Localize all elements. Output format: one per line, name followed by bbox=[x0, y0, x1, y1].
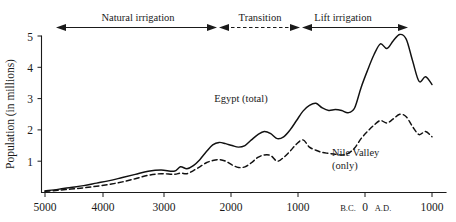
lift-irrigation-arrowhead-right bbox=[398, 24, 408, 31]
period-bracket-lift-irrigation: Lift irrigation bbox=[302, 12, 408, 31]
x-tick-label-4000bc: 4000 bbox=[92, 201, 115, 213]
x-tick-label-2000bc: 2000 bbox=[220, 201, 243, 213]
natural-irrigation-arrowhead-right bbox=[207, 24, 217, 31]
axis-lines bbox=[42, 36, 447, 193]
series-label-nile-valley-only: (only) bbox=[332, 160, 358, 172]
chart-figure: Natural irrigation Transition Lift irrig… bbox=[0, 0, 456, 222]
y-tick-label-2: 2 bbox=[27, 124, 33, 136]
transition-arrowhead-right bbox=[290, 24, 300, 31]
y-tick-label-5: 5 bbox=[27, 31, 33, 43]
transition-arrowhead-left bbox=[219, 24, 229, 31]
period-label-lift-irrigation: Lift irrigation bbox=[314, 12, 372, 23]
period-bracket-natural-irrigation: Natural irrigation bbox=[56, 12, 217, 31]
y-tick-label-1: 1 bbox=[27, 156, 33, 168]
x-tick-label-1000ad: 1000 bbox=[421, 201, 444, 213]
population-line-chart: Natural irrigation Transition Lift irrig… bbox=[0, 0, 456, 222]
y-tick-label-3: 3 bbox=[27, 93, 33, 105]
x-tick-label-1000bc: 1000 bbox=[287, 201, 310, 213]
lift-irrigation-arrowhead-left bbox=[302, 24, 312, 31]
period-label-transition: Transition bbox=[239, 12, 283, 23]
y-axis-ticks bbox=[38, 36, 42, 161]
y-tick-label-4: 4 bbox=[27, 62, 33, 74]
x-tick-label-5000bc: 5000 bbox=[34, 201, 57, 213]
x-axis-ticks bbox=[45, 193, 432, 198]
x-axis-tick-labels: 5000 4000 3000 2000 1000 B.C. 0 A.D. 100… bbox=[34, 201, 444, 213]
period-bracket-transition: Transition bbox=[219, 12, 300, 31]
series-label-nile-valley: Nile Valley bbox=[332, 147, 380, 158]
x-tick-label-bc-era: B.C. bbox=[340, 203, 356, 213]
period-label-natural-irrigation: Natural irrigation bbox=[101, 12, 175, 23]
y-axis-tick-labels: 5 4 3 2 1 bbox=[27, 31, 33, 168]
x-tick-label-ad-era: A.D. bbox=[375, 203, 392, 213]
x-tick-label-zero: 0 bbox=[362, 201, 368, 213]
natural-irrigation-arrowhead-left bbox=[56, 24, 66, 31]
y-axis-title: Population (in millions) bbox=[4, 59, 17, 169]
series-label-egypt-total: Egypt (total) bbox=[214, 93, 268, 105]
x-tick-label-3000bc: 3000 bbox=[153, 201, 176, 213]
